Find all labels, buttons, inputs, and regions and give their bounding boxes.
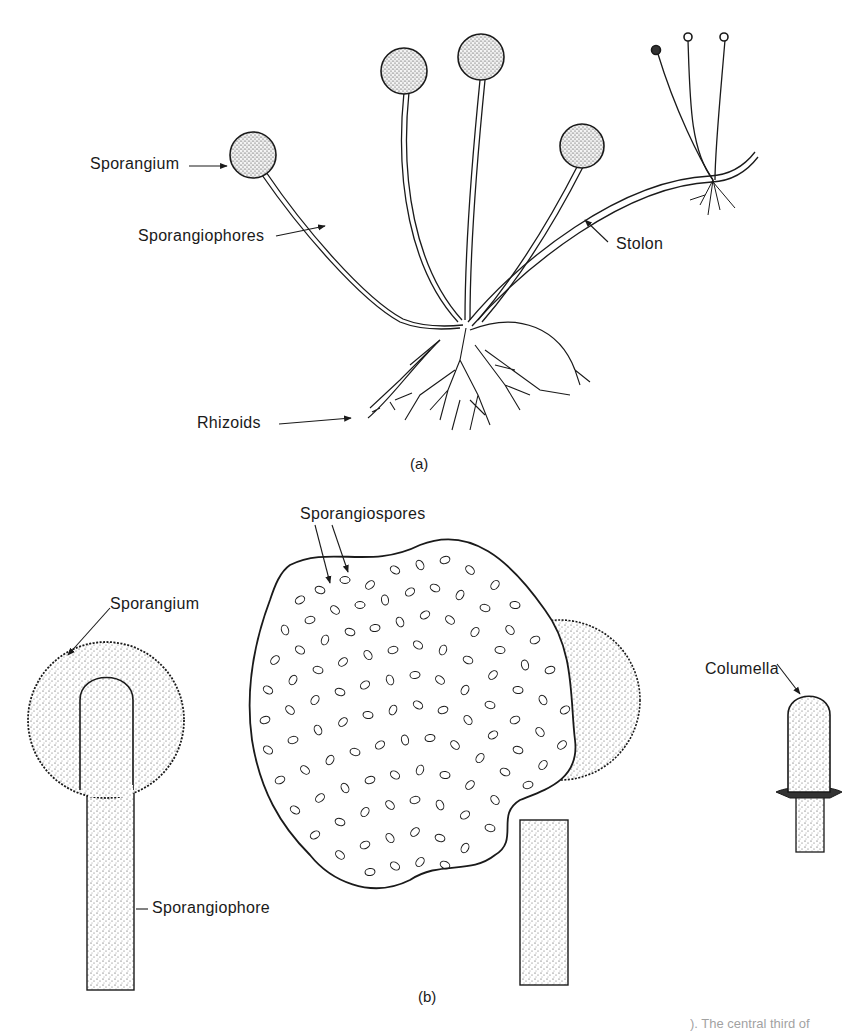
caption-panel-a: (a) — [410, 455, 428, 472]
panel-a-leaders — [189, 166, 608, 424]
panel-b-left-sporangium — [28, 642, 184, 990]
bottom-caption-fragment: ). The central third of — [690, 1016, 810, 1031]
caption-panel-b: (b) — [418, 988, 436, 1005]
label-stolon: Stolon — [616, 235, 663, 253]
label-sporangium-a: Sporangium — [90, 155, 179, 173]
panel-a-sporangia — [230, 33, 728, 178]
label-columella: Columella — [705, 660, 779, 678]
label-sporangium-b: Sporangium — [110, 595, 199, 613]
label-sporangiospores: Sporangiospores — [300, 505, 425, 523]
label-sporangiophores: Sporangiophores — [138, 227, 264, 245]
panel-a-drawing — [262, 40, 758, 430]
label-sporangiophore: Sporangiophore — [152, 899, 270, 917]
label-rhizoids: Rhizoids — [197, 414, 261, 432]
panel-b-columella — [776, 696, 842, 852]
